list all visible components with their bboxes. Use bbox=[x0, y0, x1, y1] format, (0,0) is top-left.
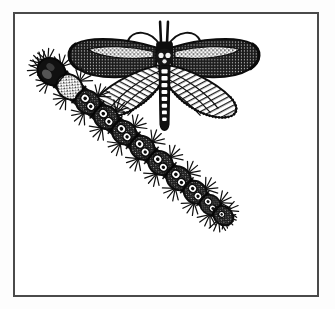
illustration-figure bbox=[0, 0, 335, 309]
moth-thorax bbox=[156, 42, 174, 67]
figure-caption bbox=[16, 300, 216, 308]
illustration-canvas bbox=[15, 14, 317, 295]
moth-abdomen bbox=[159, 65, 170, 130]
illustration-frame bbox=[13, 12, 319, 297]
